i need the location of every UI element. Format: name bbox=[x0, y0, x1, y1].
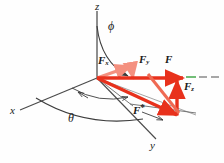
z-axis-label: z bbox=[95, 1, 99, 12]
y-axis-line bbox=[97, 78, 156, 139]
angle-arcs bbox=[36, 26, 143, 121]
Fx-label: Fx bbox=[98, 55, 109, 67]
Fx-helper-arrow bbox=[97, 66, 131, 78]
F-projection-label: F* bbox=[133, 104, 145, 116]
F-projection-pointer bbox=[142, 112, 163, 120]
Fz-label: Fz bbox=[184, 81, 194, 93]
Fstar-base: F bbox=[133, 104, 140, 116]
theta-angle-label: θ bbox=[68, 112, 74, 124]
x-axis-line bbox=[20, 78, 97, 110]
Fstar-superscript: * bbox=[140, 104, 145, 113]
Fz-subscript: z bbox=[191, 86, 194, 93]
Fy-label: Fy bbox=[139, 54, 149, 66]
F-base: F bbox=[165, 53, 172, 65]
Fy-subscript: y bbox=[146, 59, 149, 66]
Fx-subscript: x bbox=[105, 60, 108, 67]
vector-diagram-figure: z x y ϕ θ Fx Fy F Fz F* bbox=[0, 0, 224, 163]
Fy-helper-arrow bbox=[131, 66, 133, 78]
x-axis-label: x bbox=[10, 105, 15, 116]
F-resultant-label: F bbox=[165, 54, 172, 65]
phi-angle-label: ϕ bbox=[108, 20, 114, 32]
y-axis-label: y bbox=[150, 140, 155, 151]
